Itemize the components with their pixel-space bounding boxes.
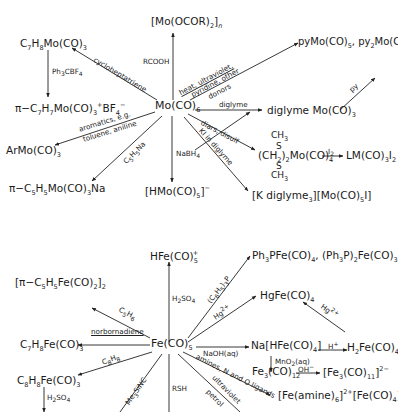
product-norbornadiene-fe: C7H8Fe(CO)3 bbox=[20, 339, 83, 353]
reagent-h2so4-cot: H2SO4 bbox=[47, 394, 70, 403]
product-protonated-fe: HFe(CO)5+ bbox=[150, 250, 198, 264]
reagent-ph3cbf4: Ph3CBF4 bbox=[52, 68, 83, 77]
reagent-rcooh: RCOOH bbox=[143, 58, 169, 65]
product-triiron-anion: [Fe3(CO)11]2− bbox=[323, 366, 389, 380]
reagent-diglyme: diglyme bbox=[219, 101, 248, 108]
ring-ch3-bottom: CH3 bbox=[271, 171, 288, 182]
product-mercury-fe: HgFe(CO)4 bbox=[260, 290, 314, 304]
reagent-i2: I2 bbox=[328, 148, 334, 157]
center-mo-hexacarbonyl: Mo(CO)6 bbox=[155, 100, 200, 114]
product-cycloheptatriene-mo: C7H8Mo(CO)3 bbox=[20, 38, 87, 52]
reagent-h-plus: H+ bbox=[328, 341, 338, 351]
reagent-norbornadiene: norbornadiene bbox=[91, 328, 144, 335]
product-dihydrido-fe: H2Fe(CO)4 bbox=[347, 342, 398, 356]
product-dithio-mo: (CH2)2Mo(CO)4 bbox=[258, 150, 333, 164]
product-phosphine-fe: Ph3PFe(CO)4, (Ph3P)2Fe(CO)3 bbox=[252, 250, 398, 264]
reagent-hydroxide: OH− bbox=[298, 364, 314, 374]
product-k-diglyme-mo: [K diglyme3][Mo(CO)5I] bbox=[252, 190, 371, 204]
product-amine-fe-salt: [Fe(amine)6]2+[Fe(CO)4]2− bbox=[278, 389, 398, 403]
reagent-h2so4: H2SO4 bbox=[172, 295, 195, 304]
product-hydride-mo: [HMo(CO)5]− bbox=[145, 185, 210, 199]
product-cyclopentadienyl-mo: π−C5H5Mo(CO)3Na bbox=[9, 183, 105, 197]
product-pyridine-mo: pyMo(CO)5, py2Mo(CO)4, py3Mo(CO)3 bbox=[300, 37, 398, 50]
product-diglyme-mo: diglyme Mo(CO)3 bbox=[267, 105, 356, 119]
reagent-naoh: NaOH(aq) bbox=[203, 350, 238, 357]
product-cyclooctatetraene-fe: C8H8Fe(CO)3 bbox=[17, 375, 80, 389]
product-cyclopentadienyl-fe: [π−C5H5Fe(CO)2]2 bbox=[15, 277, 106, 291]
product-mo-carboxylate: [Mo(OCOR)2]n bbox=[151, 16, 222, 30]
center-iron-pentacarbonyl: Fe(CO)5 bbox=[151, 338, 193, 352]
product-sodium-hydridoferrate: Na[HFe(CO)4] bbox=[251, 340, 321, 354]
reagent-nabh4: NaBH4 bbox=[176, 150, 200, 159]
product-triiron-dodecacarbonyl: Fe3(CO)12 bbox=[252, 366, 300, 380]
reagent-rsh: RSH bbox=[172, 385, 187, 392]
product-iodo-mo: LM(CO)3I2 bbox=[346, 150, 396, 164]
product-arene-mo: ArMo(CO)3 bbox=[6, 145, 61, 159]
product-tropylium-mo: π−C7H7Mo(CO)3+BF4− bbox=[15, 102, 125, 116]
